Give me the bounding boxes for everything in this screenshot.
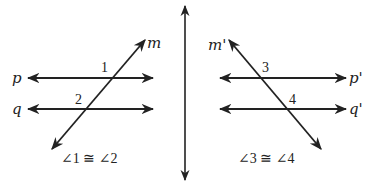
- line-label-p: p: [12, 69, 22, 87]
- parallel-lines-diagram: pqm12∠1 ≅ ∠2 p'q'm'34∠3 ≅ ∠4: [0, 0, 374, 187]
- line-m-prime: [229, 40, 321, 149]
- left-figure: pqm12∠1 ≅ ∠2: [12, 34, 161, 166]
- line-label-q-prime: q': [349, 100, 363, 118]
- line-label-q: q: [12, 100, 22, 118]
- angle-label-4: 4: [289, 92, 296, 107]
- right-figure: p'q'm'34∠3 ≅ ∠4: [208, 36, 363, 166]
- congruence-statement: ∠3 ≅ ∠4: [238, 151, 294, 166]
- angle-label-3: 3: [262, 60, 269, 75]
- angle-label-2: 2: [75, 92, 82, 107]
- line-label-m-prime: m': [208, 36, 226, 54]
- angle-label-1: 1: [101, 60, 108, 75]
- line-label-m: m: [147, 34, 161, 52]
- line-label-p-prime: p': [349, 69, 363, 87]
- congruence-statement: ∠1 ≅ ∠2: [61, 151, 117, 166]
- line-m: [52, 40, 145, 149]
